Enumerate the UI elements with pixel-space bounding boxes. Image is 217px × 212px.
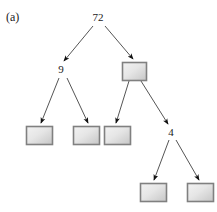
tree-node-label: 72 <box>78 12 118 23</box>
tree-edge <box>41 78 59 123</box>
tree-edge <box>67 78 88 123</box>
tree-node-box <box>74 127 100 145</box>
binary-tree-graphic <box>0 0 217 212</box>
tree-edge <box>105 26 133 59</box>
tree-node-box <box>188 184 214 202</box>
tree-edge <box>154 140 169 180</box>
tree-edges-layer <box>41 26 199 180</box>
figure-container: (a) 7294 <box>0 0 217 212</box>
tree-edge <box>176 140 199 180</box>
tree-edge <box>141 81 168 124</box>
tree-node-box <box>27 127 53 145</box>
tree-edge <box>64 26 93 61</box>
tree-node-box <box>105 127 131 145</box>
tree-node-label: 4 <box>151 127 191 138</box>
tree-node-box <box>141 184 167 202</box>
tree-node-label: 9 <box>41 64 81 75</box>
tree-node-box <box>123 63 147 81</box>
tree-edge <box>116 81 129 123</box>
